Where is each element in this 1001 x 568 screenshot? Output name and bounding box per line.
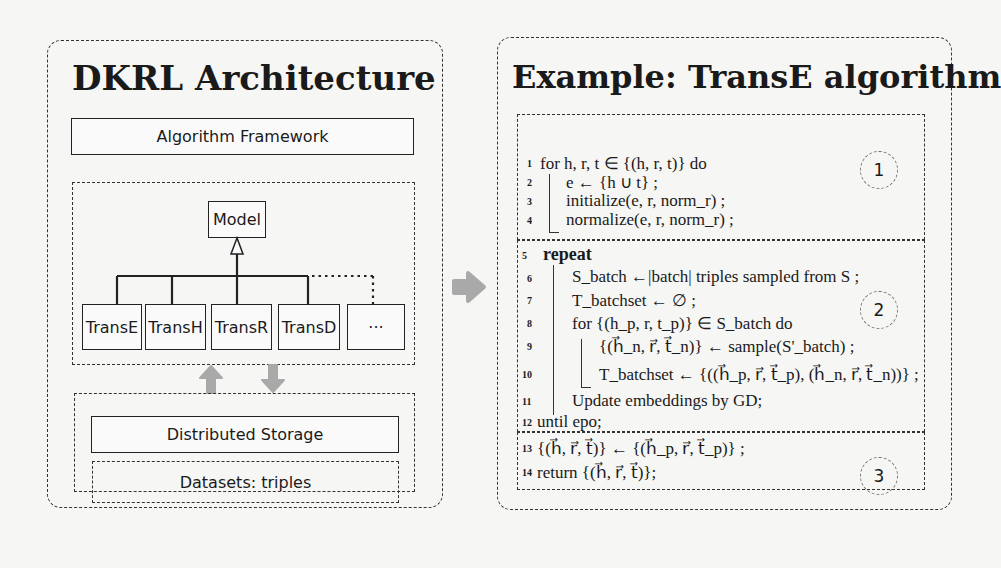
down-arrow-icon: [260, 364, 286, 394]
line-number: 6: [527, 273, 532, 284]
line-number: 7: [527, 295, 532, 306]
step-circle-2: 2: [860, 291, 898, 329]
right-arrow-icon: [450, 270, 488, 304]
subclass-label: TransH: [148, 318, 202, 337]
line-number: 8: [527, 318, 532, 329]
inheritance-connectors: [60, 235, 400, 310]
algo-line-14: return {(h⃗, r⃗, t⃗)};: [537, 462, 656, 483]
subclass-transr: TransR: [211, 304, 272, 350]
step-number: 1: [874, 160, 885, 180]
distributed-storage-label: Distributed Storage: [167, 425, 324, 444]
algo-line-9: {(h⃗_n, r⃗, t⃗_n)} ← sample(S'_batch) ;: [599, 336, 854, 357]
step-circle-3: 3: [860, 457, 898, 495]
algo-line-12: until epo;: [537, 412, 602, 432]
algo-line-7: T_batchset ← ∅ ;: [572, 290, 696, 311]
subclass-label: TransD: [282, 318, 337, 337]
subclass-transd: TransD: [278, 304, 340, 350]
subclass-transe: TransE: [82, 304, 142, 350]
line-number: 2: [527, 177, 532, 188]
up-arrow-icon: [198, 364, 224, 394]
line-number: 3: [527, 196, 532, 207]
algo-line-3: initialize(e, r, norm_r) ;: [566, 191, 725, 211]
algo-line-1: for h, r, t ∈ {(h, r, t)} do: [540, 153, 707, 174]
algo-line-11: Update embeddings by GD;: [572, 391, 762, 411]
line-number: 5: [522, 250, 527, 261]
line-number: 1: [527, 158, 532, 169]
line-number: 11: [522, 396, 531, 407]
datasets-label: Datasets: triples: [180, 473, 312, 492]
algo-line-2: e ← {h ∪ t} ;: [566, 172, 658, 193]
architecture-title: DKRL Architecture: [72, 58, 436, 98]
subclass-label: TransR: [215, 318, 268, 337]
line-number: 10: [522, 369, 532, 380]
algo-line-13: {(h⃗, r⃗, t⃗)} ← {(h⃗_p, r⃗, t⃗_p)} ;: [537, 438, 745, 459]
subclass-more: ···: [347, 304, 405, 350]
datasets-box: Datasets: triples: [92, 461, 399, 503]
algo-line-8: for {(h_p, r, t_p)} ∈ S_batch do: [572, 313, 792, 334]
line-number: 14: [522, 467, 532, 478]
block-bar: [553, 265, 554, 415]
distributed-storage-box: Distributed Storage: [91, 416, 399, 453]
line-number: 9: [527, 341, 532, 352]
step-number: 3: [874, 466, 885, 486]
algo-line-4: normalize(e, r, norm_r) ;: [566, 210, 734, 230]
model-box: Model: [208, 201, 266, 238]
algorithm-framework-label: Algorithm Framework: [156, 127, 328, 146]
line-number: 12: [522, 417, 532, 428]
subclass-label: ···: [368, 318, 383, 337]
model-label: Model: [213, 210, 261, 229]
algorithm-title: Example: TransE algorithm: [512, 58, 1001, 96]
algorithm-framework-box: Algorithm Framework: [71, 118, 414, 155]
block-bar: [549, 232, 559, 233]
algo-line-10: T_batchset ← {((h⃗_p, r⃗, t⃗_p), (h⃗_n, …: [599, 364, 919, 385]
step-circle-1: 1: [860, 151, 898, 189]
algo-line-5: repeat: [543, 244, 592, 265]
block-bar: [549, 174, 550, 232]
subclass-transh: TransH: [145, 304, 206, 350]
block-bar: [581, 387, 591, 388]
step-number: 2: [874, 300, 885, 320]
subclass-label: TransE: [86, 318, 138, 337]
line-number: 13: [522, 443, 532, 454]
block-bar: [581, 339, 582, 387]
line-number: 4: [527, 215, 532, 226]
algo-line-6: S_batch ←|batch| triples sampled from S …: [572, 267, 859, 287]
